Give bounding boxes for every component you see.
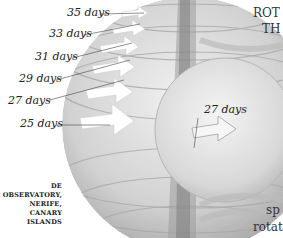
side-text-top-1: ROT: [253, 6, 280, 20]
rotation-label-29: 29 days: [19, 72, 62, 85]
side-text-top-2: TH: [262, 22, 280, 36]
side-text-bottom-1: sp: [266, 203, 280, 217]
rotation-label-27: 27 days: [8, 94, 51, 107]
photo-credit-caption: DE OBSERVATORY, NERIFE, CANARY ISLANDS: [0, 182, 62, 227]
interior-rotation-label: 27 days: [204, 103, 247, 116]
rotation-label-33: 33 days: [49, 27, 92, 40]
rotation-label-31: 31 days: [35, 50, 78, 63]
rotation-label-25: 25 days: [20, 117, 63, 130]
side-text-bottom-2: rotat: [253, 220, 283, 234]
rotation-label-35: 35 days: [67, 6, 110, 19]
